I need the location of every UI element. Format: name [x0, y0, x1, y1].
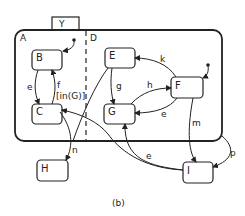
transition-f-to-g: e	[135, 98, 177, 119]
state-i: I	[183, 162, 213, 183]
transition-c-to-b: f [in(G)]	[52, 70, 85, 104]
orthogonal-label-d: D	[90, 33, 97, 43]
svg-text:B: B	[36, 52, 43, 63]
transition-e-to-boundary	[73, 68, 108, 141]
svg-text:f: f	[57, 80, 61, 90]
svg-text:H: H	[41, 163, 49, 174]
svg-text:I: I	[187, 165, 190, 176]
svg-text:E: E	[109, 50, 115, 61]
transition-f-to-i: m	[189, 98, 201, 162]
statechart-diagram: Y A D B C E G F H I	[0, 0, 245, 216]
superstate-tab-y: Y	[52, 17, 79, 30]
state-f: F	[171, 77, 203, 98]
default-entry-b	[63, 38, 76, 51]
transition-g-to-f: h	[131, 80, 171, 104]
svg-text:G: G	[108, 106, 116, 117]
state-h: H	[37, 160, 68, 181]
svg-text:g: g	[116, 81, 122, 91]
svg-text:k: k	[160, 54, 166, 64]
svg-text:e: e	[146, 151, 152, 161]
figure-caption: (b)	[112, 198, 125, 208]
svg-text:m: m	[192, 118, 201, 128]
svg-text:[in(G)]: [in(G)]	[56, 91, 85, 101]
svg-text:F: F	[175, 80, 181, 91]
svg-text:C: C	[36, 106, 43, 117]
transition-f-to-e: k	[135, 54, 176, 77]
svg-text:n: n	[72, 145, 78, 155]
superstate-a-label: A	[20, 33, 27, 43]
state-e: E	[105, 48, 135, 68]
state-c: C	[32, 104, 62, 124]
svg-text:e: e	[161, 109, 167, 119]
transition-e-to-g: g	[111, 68, 122, 104]
svg-text:e: e	[27, 82, 33, 92]
state-g: G	[104, 104, 135, 124]
svg-text:h: h	[147, 80, 153, 90]
svg-text:p: p	[230, 148, 236, 158]
default-entry-f	[203, 63, 210, 78]
transition-b-to-c: e	[27, 70, 39, 104]
transition-i-to-g: e	[125, 124, 183, 170]
svg-text:Y: Y	[58, 19, 65, 29]
state-b: B	[32, 50, 62, 70]
